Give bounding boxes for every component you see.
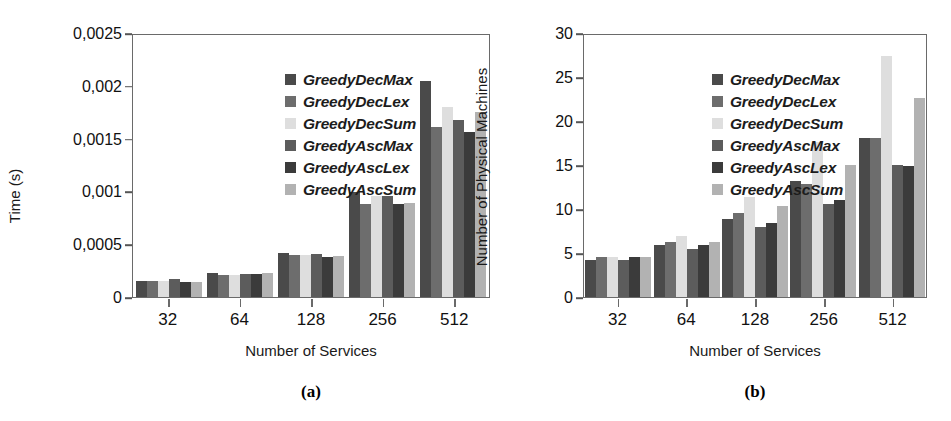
bar-greedyascsum-256 [845, 165, 856, 297]
x-tick-label: 256 [789, 310, 858, 330]
y-tick-mark [576, 33, 583, 35]
bar-greedyascsum-32 [191, 282, 202, 297]
bar-greedyascmax-256 [823, 204, 834, 297]
bar-group-32 [585, 35, 651, 297]
bar-greedyasclex-128 [322, 257, 333, 297]
bar-greedyascsum-256 [404, 203, 415, 297]
x-tick-mark [168, 299, 170, 307]
plot-area-a: GreedyDecMaxGreedyDecLexGreedyDecSumGree… [132, 34, 490, 298]
bar-group-32 [136, 35, 202, 297]
legend-swatch-icon [285, 96, 296, 107]
y-tick-label: 0,0025 [73, 26, 122, 42]
bar-greedyascmax-128 [755, 227, 766, 297]
bar-greedydecmax-512 [420, 81, 431, 297]
x-tick-mark [893, 299, 895, 307]
y-tick-label: 10 [555, 202, 573, 218]
y-tick-label: 30 [555, 26, 573, 42]
legend-item-greedydecsum[interactable]: GreedyDecSum [285, 113, 416, 134]
legend-item-greedyascsum[interactable]: GreedyAscSum [285, 179, 416, 200]
y-tick-label: 5 [564, 246, 573, 262]
legend-swatch-icon [712, 140, 723, 151]
y-axis-title-b: Number of Physical Machines [473, 22, 499, 312]
x-tick-mark [311, 299, 313, 307]
legend-item-greedydecmax[interactable]: GreedyDecMax [712, 69, 843, 90]
y-tick-label: 0,001 [82, 184, 122, 200]
legend-swatch-icon [712, 118, 723, 129]
bar-greedyasclex-32 [180, 282, 191, 297]
bar-greedydecmax-256 [349, 192, 360, 297]
legend-swatch-icon [712, 184, 723, 195]
y-tick-label: 0,0015 [73, 132, 122, 148]
x-tick-mark [755, 299, 757, 307]
bar-greedyascsum-512 [914, 98, 925, 297]
legend-item-greedyascmax[interactable]: GreedyAscMax [712, 135, 843, 156]
legend-item-greedydeclex[interactable]: GreedyDecLex [285, 91, 416, 112]
bar-greedydeclex-32 [596, 257, 607, 297]
x-tick-mark [686, 299, 688, 307]
x-tick-mark [454, 299, 456, 307]
legend-b: GreedyDecMaxGreedyDecLexGreedyDecSumGree… [712, 69, 843, 200]
x-tick-label: 128 [275, 310, 347, 330]
legend-item-greedyascsum[interactable]: GreedyAscSum [712, 179, 843, 200]
bar-greedydeclex-512 [431, 127, 442, 297]
x-tick-label: 256 [347, 310, 419, 330]
legend-label: GreedyAscSum [303, 181, 416, 199]
legend-swatch-icon [712, 162, 723, 173]
bar-greedyascmax-32 [169, 279, 180, 297]
legend-label: GreedyAscLex [303, 159, 409, 177]
legend-item-greedyascmax[interactable]: GreedyAscMax [285, 135, 416, 156]
bar-greedydeclex-64 [665, 242, 676, 297]
legend-item-greedydecsum[interactable]: GreedyDecSum [712, 113, 843, 134]
bar-group-512 [859, 35, 925, 297]
legend-label: GreedyDecSum [730, 115, 843, 133]
caption-b: (b) [583, 382, 927, 402]
legend-label: GreedyAscLex [730, 159, 836, 177]
x-tick-mark [824, 299, 826, 307]
bar-greedydecmax-128 [278, 253, 289, 297]
legend-swatch-icon [285, 74, 296, 85]
x-tick-label: 512 [858, 310, 927, 330]
plot-area-b: GreedyDecMaxGreedyDecLexGreedyDecSumGree… [583, 34, 927, 298]
y-tick-label: 20 [555, 114, 573, 130]
bar-greedydeclex-32 [147, 281, 158, 297]
legend-a: GreedyDecMaxGreedyDecLexGreedyDecSumGree… [285, 69, 416, 200]
x-tick-mark [618, 299, 620, 307]
bar-greedydecsum-128 [744, 197, 755, 297]
x-tick-mark [240, 299, 242, 307]
legend-item-greedyasclex[interactable]: GreedyAscLex [712, 157, 843, 178]
y-tick-mark [576, 165, 583, 167]
bar-greedydecsum-256 [371, 196, 382, 297]
bar-greedyascmax-512 [453, 120, 464, 297]
y-tick-label: 0,0005 [73, 237, 122, 253]
x-tick-label: 64 [652, 310, 721, 330]
caption-a: (a) [132, 382, 490, 402]
bar-greedydeclex-256 [801, 184, 812, 297]
y-tick-label: 0 [113, 290, 122, 306]
y-tick-mark [125, 192, 132, 194]
bar-greedydecsum-128 [300, 255, 311, 297]
bar-greedyasclex-64 [251, 274, 262, 297]
bar-greedyascsum-64 [709, 242, 720, 297]
bar-greedyascsum-128 [777, 206, 788, 297]
bar-greedyascmax-512 [892, 165, 903, 297]
y-tick-mark [125, 86, 132, 88]
bar-greedyascmax-64 [687, 249, 698, 297]
bar-group-64 [654, 35, 720, 297]
y-tick-label: 15 [555, 158, 573, 174]
y-tick-label: 25 [555, 70, 573, 86]
legend-item-greedyasclex[interactable]: GreedyAscLex [285, 157, 416, 178]
legend-item-greedydecmax[interactable]: GreedyDecMax [285, 69, 416, 90]
legend-item-greedydeclex[interactable]: GreedyDecLex [712, 91, 843, 112]
y-axis-title-a: Time (s) [6, 62, 32, 330]
legend-label: GreedyDecLex [730, 93, 836, 111]
bar-greedydecsum-512 [881, 56, 892, 297]
y-tick-mark [125, 33, 132, 35]
x-axis-title-b: Number of Services [583, 342, 927, 359]
bar-greedyasclex-128 [766, 223, 777, 297]
bar-greedyascmax-32 [618, 260, 629, 297]
bar-greedyascmax-256 [382, 196, 393, 297]
y-tick-mark [125, 244, 132, 246]
legend-swatch-icon [712, 96, 723, 107]
bar-greedydeclex-512 [870, 138, 881, 297]
bar-greedydeclex-256 [360, 204, 371, 297]
